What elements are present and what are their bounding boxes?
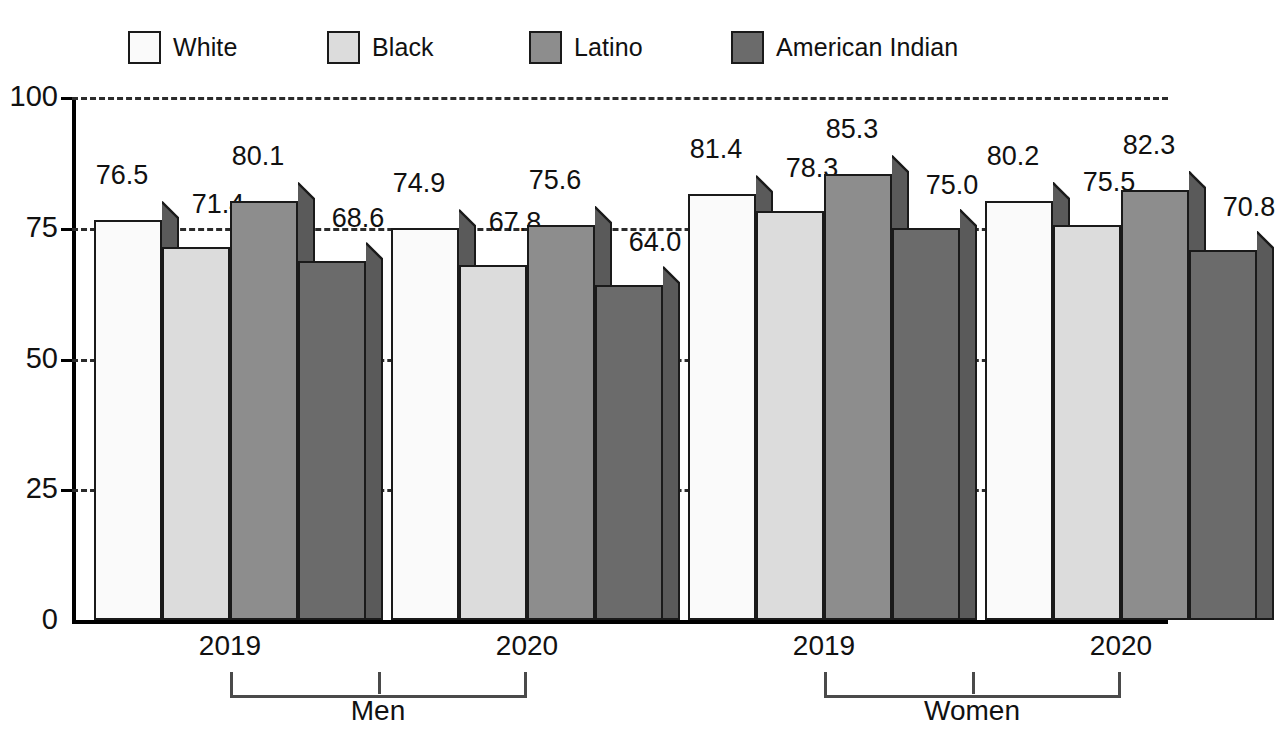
- bar-side-top-edge: [663, 266, 680, 620]
- x-tick-label-2: 2019: [744, 632, 904, 660]
- legend-swatch-black: [327, 31, 360, 64]
- x-tick-label-0: 2019: [150, 632, 310, 660]
- bar-front-face: [230, 201, 298, 620]
- bar-front-face: [1121, 190, 1189, 620]
- bar-front-face: [391, 228, 459, 620]
- legend-item-label: Latino: [574, 35, 643, 60]
- bar-value-label: 85.3: [818, 116, 886, 143]
- bar-side-top-edge: [1257, 231, 1274, 620]
- legend-item-black[interactable]: Black: [327, 22, 434, 72]
- bar-side-top-edge: [960, 209, 977, 620]
- table-row[interactable]: 81.4: [688, 175, 756, 620]
- bar-front-face: [595, 285, 663, 620]
- y-tick-mark-100: [61, 97, 72, 100]
- legend-item-label: Black: [372, 35, 434, 60]
- table-row[interactable]: 75.5: [1053, 206, 1121, 620]
- bar-value-label: 68.6: [324, 205, 392, 232]
- table-row[interactable]: 74.9: [391, 209, 459, 620]
- table-row[interactable]: 80.1: [230, 182, 298, 620]
- table-row[interactable]: 70.8: [1189, 231, 1257, 620]
- bar-value-label: 80.2: [979, 143, 1047, 170]
- y-tick-mark-25: [61, 489, 72, 492]
- bar-front-face: [459, 265, 527, 620]
- bar-front-face: [162, 247, 230, 620]
- legend-item-american-indian[interactable]: American Indian: [731, 22, 958, 72]
- bar-front-face: [688, 194, 756, 620]
- legend-item-white[interactable]: White: [128, 22, 237, 72]
- legend-item-label: American Indian: [776, 35, 958, 60]
- table-row[interactable]: 82.3: [1121, 171, 1189, 620]
- bar-front-face: [94, 220, 162, 620]
- bar-value-label: 64.0: [621, 229, 689, 256]
- legend-swatch-white: [128, 31, 161, 64]
- group-bracket-stem-women: [972, 672, 975, 694]
- legend-item-label: White: [173, 35, 237, 60]
- bar-front-face: [1189, 250, 1257, 620]
- x-tick-label-1: 2020: [447, 632, 607, 660]
- y-tick-label-50: 50: [0, 344, 58, 373]
- group-label-men: Men: [268, 697, 488, 725]
- group-label-women: Women: [862, 697, 1082, 725]
- y-tick-mark-75: [61, 228, 72, 231]
- y-tick-label-0: 0: [0, 605, 58, 634]
- bar-value-label: 74.9: [385, 170, 453, 197]
- chart-legend: WhiteBlackLatinoAmerican Indian: [0, 22, 1195, 78]
- plot-area: 1007550250 76.571.480.168.674.967.875.66…: [72, 97, 1168, 620]
- bar-value-label: 82.3: [1115, 132, 1183, 159]
- table-row[interactable]: 64.0: [595, 266, 663, 620]
- table-row[interactable]: 75.6: [527, 206, 595, 620]
- gridline-100: [72, 97, 1168, 100]
- legend-swatch-american-indian: [731, 31, 764, 64]
- table-row[interactable]: 68.6: [298, 242, 366, 620]
- group-bracket-stem-men: [378, 672, 381, 694]
- x-tick-label-3: 2020: [1041, 632, 1201, 660]
- table-row[interactable]: 80.2: [985, 182, 1053, 620]
- bar-value-label: 76.5: [88, 162, 156, 189]
- y-tick-mark-50: [61, 359, 72, 362]
- table-row[interactable]: 67.8: [459, 246, 527, 620]
- y-tick-label-100: 100: [0, 82, 58, 111]
- bar-value-label: 75.6: [521, 167, 589, 194]
- bar-value-label: 70.8: [1215, 194, 1279, 221]
- bar-value-label: 80.1: [224, 143, 292, 170]
- y-tick-label-75: 75: [0, 213, 58, 242]
- y-tick-label-25: 25: [0, 474, 58, 503]
- bar-front-face: [985, 201, 1053, 620]
- bar-front-face: [892, 228, 960, 620]
- table-row[interactable]: 75.0: [892, 209, 960, 620]
- legend-swatch-latino: [529, 31, 562, 64]
- bar-front-face: [298, 261, 366, 620]
- bar-side-top-edge: [366, 242, 383, 620]
- bar-front-face: [824, 174, 892, 620]
- bar-front-face: [1053, 225, 1121, 620]
- table-row[interactable]: 76.5: [94, 201, 162, 620]
- bar-front-face: [756, 211, 824, 621]
- bar-value-label: 75.0: [918, 172, 986, 199]
- legend-item-latino[interactable]: Latino: [529, 22, 643, 72]
- x-axis-line: [72, 620, 1168, 624]
- table-row[interactable]: 78.3: [756, 192, 824, 621]
- table-row[interactable]: 85.3: [824, 155, 892, 620]
- bar-value-label: 81.4: [682, 136, 750, 163]
- table-row[interactable]: 71.4: [162, 228, 230, 620]
- bar-front-face: [527, 225, 595, 620]
